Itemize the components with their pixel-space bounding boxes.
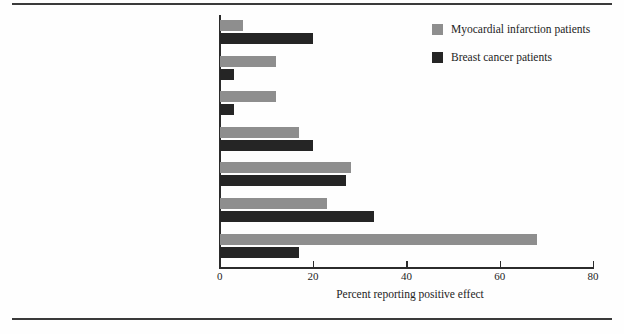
- bar: [220, 20, 243, 31]
- bar: [220, 56, 276, 67]
- bar-chart-plot-area: 020406080 Improved empathyGreater knowle…: [0, 0, 624, 334]
- x-axis-tick-label: 0: [200, 270, 240, 282]
- x-axis-tick-label: 60: [480, 270, 520, 282]
- bar: [220, 234, 537, 245]
- bar: [220, 247, 299, 258]
- x-axis-title: Percent reporting positive effect: [240, 288, 580, 300]
- legend-label: Breast cancer patients: [451, 50, 552, 65]
- bar-group: A change in personal life priorities: [220, 125, 593, 157]
- bar: [220, 104, 234, 115]
- bar: [220, 33, 313, 44]
- x-axis-tick-label: 80: [573, 270, 613, 282]
- legend-swatch-icon: [432, 52, 443, 63]
- bar: [220, 140, 313, 151]
- bar-group: Healthy lifestyle change: [220, 232, 593, 264]
- legend-label: Myocardial infarction patients: [451, 22, 590, 37]
- bar: [220, 91, 276, 102]
- legend-swatch-icon: [432, 24, 443, 35]
- x-axis-tick: [593, 261, 594, 268]
- x-axis-tick-label: 20: [293, 270, 333, 282]
- bar-group: Improved close relationships: [220, 196, 593, 228]
- bar: [220, 198, 327, 209]
- figure-panel: 020406080 Improved empathyGreater knowle…: [0, 0, 624, 334]
- bar: [220, 162, 351, 173]
- bar: [220, 211, 374, 222]
- bar-group: Greater appreciation of health and life: [220, 160, 593, 192]
- x-axis-tick-label: 40: [386, 270, 426, 282]
- bar: [220, 175, 346, 186]
- bar: [220, 69, 234, 80]
- bar: [220, 127, 299, 138]
- bar-group: A second chance: [220, 89, 593, 121]
